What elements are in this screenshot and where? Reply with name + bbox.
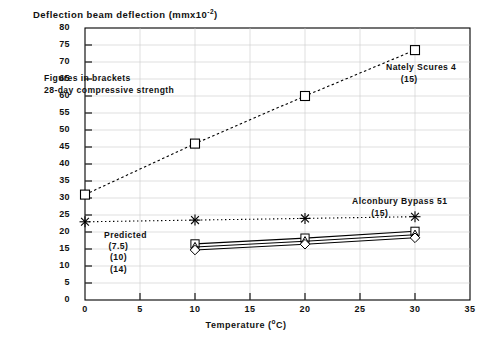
y-tick-label-5: 5: [44, 277, 70, 287]
x-tick-label-10: 10: [182, 304, 208, 314]
alconbury-label-name: Alconbury Bypass 51: [352, 196, 447, 206]
x-axis-title: Temperature (oC): [0, 318, 492, 330]
annotation-nately-scures: Nately Scures 4 (15): [386, 62, 456, 85]
x-tick-label-20: 20: [292, 304, 318, 314]
chart-figure: Deflection beam deflection (mmx10-2): [0, 0, 492, 343]
y-tick-label-75: 75: [44, 39, 70, 49]
predicted-label-title: Predicted: [104, 230, 147, 240]
y-tick-label-55: 55: [44, 107, 70, 117]
y-tick-label-80: 80: [44, 22, 70, 32]
x-tick-label-5: 5: [127, 304, 153, 314]
y-tick-label-20: 20: [44, 226, 70, 236]
alconbury-label-bracket: (15): [352, 208, 447, 220]
y-tick-label-40: 40: [44, 158, 70, 168]
annotation-predicted: Predicted (7.5) (10) (14): [104, 230, 147, 275]
y-tick-label-15: 15: [44, 243, 70, 253]
x-tick-label-30: 30: [402, 304, 428, 314]
y-tick-label-70: 70: [44, 56, 70, 66]
note-line-2: 28-day compressive strength: [44, 85, 174, 95]
data-point-marker: [411, 46, 420, 55]
nately-label-bracket: (15): [386, 74, 456, 86]
predicted-bracket-7-5: (7.5): [104, 241, 147, 252]
y-tick-label-35: 35: [44, 175, 70, 185]
plot-area: [0, 0, 492, 343]
x-tick-label-25: 25: [347, 304, 373, 314]
predicted-bracket-14: (14): [104, 264, 147, 275]
x-tick-label-15: 15: [237, 304, 263, 314]
x-axis-title-suffix: C): [276, 320, 287, 330]
data-point-marker: [191, 139, 200, 148]
y-tick-label-30: 30: [44, 192, 70, 202]
x-tick-label-0: 0: [72, 304, 98, 314]
annotation-alconbury-bypass: Alconbury Bypass 51 (15): [352, 196, 447, 219]
y-tick-label-45: 45: [44, 141, 70, 151]
nately-label-name: Nately Scures 4: [386, 62, 456, 72]
y-tick-label-0: 0: [44, 294, 70, 304]
data-point-marker: [81, 190, 90, 199]
x-axis-title-text: Temperature (: [206, 320, 272, 330]
x-tick-label-35: 35: [457, 304, 483, 314]
annotation-brackets-note: Figures in brackets 28-day compressive s…: [44, 73, 174, 96]
y-tick-label-10: 10: [44, 260, 70, 270]
y-tick-label-25: 25: [44, 209, 70, 219]
data-point-marker: [301, 92, 310, 101]
predicted-bracket-10: (10): [104, 252, 147, 263]
note-line-1: Figures in brackets: [44, 73, 131, 83]
y-tick-label-50: 50: [44, 124, 70, 134]
